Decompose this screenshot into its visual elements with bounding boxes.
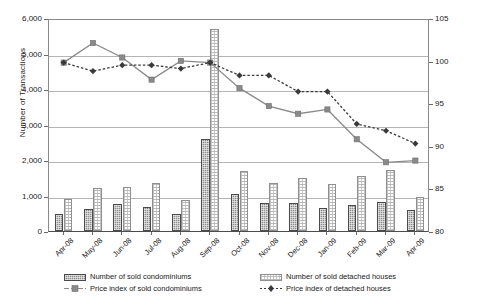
y-axis-left-tick-label: 4,000 (2, 85, 42, 94)
line-path (64, 43, 416, 162)
line-marker-square (266, 103, 271, 108)
x-axis-tick-mark (209, 232, 210, 235)
y-axis-right-tick-mark (429, 62, 433, 63)
line-marker-square (383, 160, 388, 165)
x-axis-tick-mark (121, 232, 122, 235)
y-axis-left-tick-mark (44, 126, 48, 127)
y-axis-right-tick-mark (429, 147, 433, 148)
y-axis-left-tick-label: 5,000 (2, 50, 42, 59)
y-axis-right-tick-label: 80 (435, 227, 475, 236)
y-axis-right-tick-mark (429, 19, 433, 20)
y-axis-right-tick-label: 100 (435, 57, 475, 66)
line-marker-square (149, 77, 154, 82)
x-axis-tick-mark (151, 232, 152, 235)
x-axis-tick-mark (356, 232, 357, 235)
x-axis-tick-label: Apr-08 (40, 236, 75, 271)
line-marker-diamond (412, 140, 418, 146)
y-axis-right-tick-label: 105 (435, 14, 475, 23)
y-axis-left-tick-mark (44, 55, 48, 56)
condo-line-swatch-icon (64, 284, 86, 293)
line-marker-diamond (119, 62, 125, 68)
detached-bar-swatch-icon (260, 274, 282, 281)
line-marker-square (325, 107, 330, 112)
x-axis-tick-mark (239, 232, 240, 235)
line-marker-diamond (354, 121, 360, 127)
x-axis-tick-label: Jul-08 (128, 236, 163, 271)
legend-item-detached-line: Price index of detached houses (260, 284, 391, 293)
line-marker-diamond (266, 72, 272, 78)
y-axis-right-tick-mark (429, 232, 433, 233)
chart-legend: Number of sold condominiums Number of so… (64, 272, 434, 296)
line-marker-diamond (236, 72, 242, 78)
line-marker-square (296, 111, 301, 116)
x-axis-tick-label: Jan-09 (304, 236, 339, 271)
line-marker-diamond (148, 62, 154, 68)
legend-row-lines: Price index of sold condominiums Price i… (64, 284, 434, 293)
line-marker-square (120, 55, 125, 60)
y-axis-right-tick-label: 90 (435, 142, 475, 151)
line-marker-diamond (90, 68, 96, 74)
y-axis-left-tick-mark (44, 19, 48, 20)
line-marker-diamond (178, 65, 184, 71)
condo-bar-swatch-icon (64, 274, 86, 281)
line-marker-square (413, 158, 418, 163)
x-axis-tick-mark (92, 232, 93, 235)
x-axis-tick-mark (414, 232, 415, 235)
legend-row-bars: Number of sold condominiums Number of so… (64, 272, 434, 281)
line-marker-diamond (295, 88, 301, 94)
detached-line-swatch-icon (260, 284, 282, 293)
legend-item-detached-bars: Number of sold detached houses (260, 272, 396, 281)
line-marker-diamond (383, 128, 389, 134)
transactions-price-index-chart: Number of Transactions 01,0002,0003,0004… (0, 0, 489, 300)
y-axis-left-tick-label: 3,000 (2, 121, 42, 130)
y-axis-right-tick-mark (429, 104, 433, 105)
y-axis-left-tick-label: 2,000 (2, 156, 42, 165)
legend-item-condo-bars: Number of sold condominiums (64, 272, 260, 281)
legend-label: Number of sold detached houses (286, 272, 396, 281)
y-axis-right-tick-label: 85 (435, 184, 475, 193)
x-axis-tick-mark (268, 232, 269, 235)
lines-layer (49, 20, 429, 232)
y-axis-left-tick-mark (44, 197, 48, 198)
y-axis-right-tick-label: 95 (435, 99, 475, 108)
x-axis-tick-mark (63, 232, 64, 235)
plot-area (48, 19, 429, 232)
x-axis-tick-label: Oct-08 (216, 236, 251, 271)
x-axis-tick-label: Apr-09 (392, 236, 427, 271)
line-marker-square (237, 86, 242, 91)
x-axis-tick-mark (297, 232, 298, 235)
x-axis-tick-mark (326, 232, 327, 235)
x-axis-tick-mark (180, 232, 181, 235)
y-axis-left-tick-mark (44, 232, 48, 233)
legend-label: Number of sold condominiums (90, 272, 191, 281)
y-axis-right-tick-mark (429, 189, 433, 190)
legend-item-condo-line: Price index of sold condominiums (64, 284, 260, 293)
legend-label: Price index of detached houses (286, 284, 391, 293)
legend-label: Price index of sold condominiums (90, 284, 202, 293)
y-axis-left-tick-mark (44, 90, 48, 91)
line-marker-square (90, 40, 95, 45)
y-axis-left-tick-label: 6,000 (2, 14, 42, 23)
y-axis-left-tick-label: 1,000 (2, 192, 42, 201)
line-marker-square (354, 137, 359, 142)
line-marker-square (178, 58, 183, 63)
y-axis-left-tick-label: 0 (2, 227, 42, 236)
x-axis-tick-mark (385, 232, 386, 235)
y-axis-left-tick-mark (44, 161, 48, 162)
